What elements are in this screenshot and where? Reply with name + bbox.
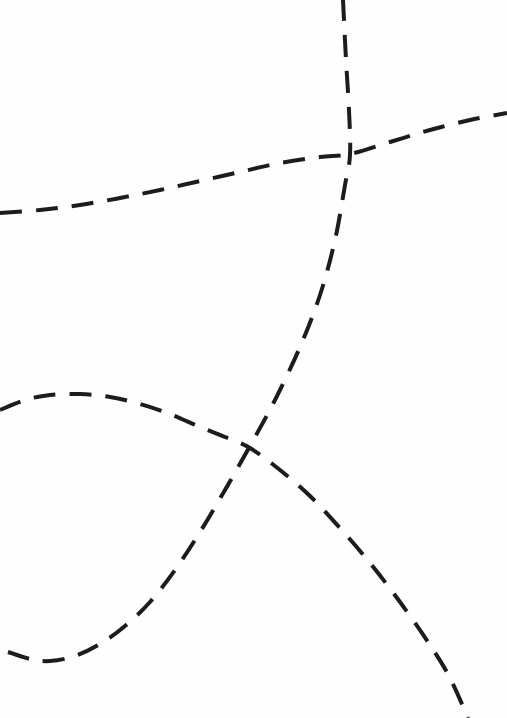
plot-background	[0, 0, 507, 718]
dashed-curves-plot	[0, 0, 507, 718]
figure-container	[0, 0, 507, 718]
